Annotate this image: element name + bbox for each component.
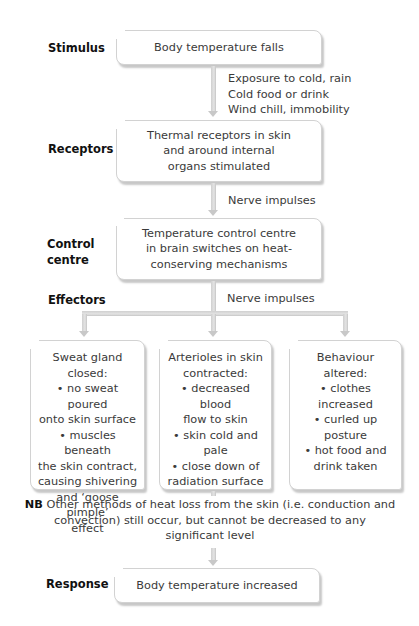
box-line: causing shivering	[37, 474, 138, 490]
receptors-box: Thermal receptors in skin and around int…	[116, 120, 322, 182]
nb-prefix: NB	[25, 498, 43, 511]
stimulus-box: Body temperature falls	[116, 30, 322, 65]
label-line: centre	[47, 252, 95, 268]
cause-line: Cold food or drink	[228, 87, 351, 103]
nerve-impulses-note-2: Nerve impulses	[227, 291, 315, 307]
cause-line: Exposure to cold, rain	[228, 71, 351, 87]
connector-effectors-note	[211, 491, 216, 496]
box-line: • skin cold and	[166, 428, 265, 444]
box-line: closed:	[37, 366, 138, 382]
box-line: Sweat gland	[37, 350, 138, 366]
box-line: Temperature control centre	[142, 226, 296, 242]
stage-label-receptors: Receptors	[48, 141, 113, 157]
effector-box-sweat-gland: Sweat gland closed: • no sweat poured on…	[30, 340, 145, 490]
box-line: • curled up	[296, 412, 395, 428]
branch-connector-left	[82, 314, 87, 332]
label-line: Control	[47, 236, 95, 252]
nb-line: NB Other methods of heat loss from the s…	[20, 497, 400, 513]
arrow-down-icon	[208, 331, 218, 337]
effector-box-arterioles: Arterioles in skin contracted: • decreas…	[159, 340, 272, 490]
box-line: organs stimulated	[147, 159, 291, 175]
box-line: radiation surface	[166, 474, 265, 490]
box-line: Behaviour altered:	[296, 350, 395, 381]
box-line: • close down of	[166, 459, 265, 475]
stage-label-stimulus: Stimulus	[48, 40, 105, 56]
box-line: pale	[166, 443, 265, 459]
response-text: Body temperature increased	[136, 578, 298, 594]
box-line: in brain switches on heat-	[142, 241, 296, 257]
nb-note: NB Other methods of heat loss from the s…	[20, 497, 400, 544]
nerve-impulses-note-1: Nerve impulses	[228, 193, 316, 209]
box-line: • decreased blood	[166, 381, 265, 412]
box-line: posture	[296, 428, 395, 444]
stage-label-effectors: Effectors	[48, 292, 106, 308]
box-line: Arterioles in skin	[166, 350, 265, 366]
nb-text: Other methods of heat loss from the skin…	[47, 498, 396, 511]
box-line: onto skin surface	[37, 412, 138, 428]
control-centre-box: Temperature control centre in brain swit…	[116, 218, 322, 280]
connector-receptors-control	[211, 183, 216, 211]
stimulus-text: Body temperature falls	[154, 40, 284, 56]
stage-label-control-centre: Control centre	[47, 236, 95, 268]
box-line: • hot food and	[296, 443, 395, 459]
arrow-down-icon	[340, 331, 350, 337]
box-line: increased	[296, 397, 395, 413]
box-line: contracted:	[166, 366, 265, 382]
branch-connector-right	[343, 314, 348, 332]
nb-line: significant level	[20, 528, 400, 544]
stage-label-response: Response	[46, 576, 108, 592]
stimulus-causes: Exposure to cold, rain Cold food or drin…	[228, 71, 351, 118]
box-line: • muscles beneath	[37, 428, 138, 459]
box-line: the skin contract,	[37, 459, 138, 475]
response-box: Body temperature increased	[114, 568, 320, 603]
box-line: Thermal receptors in skin	[147, 128, 291, 144]
box-line: conserving mechanisms	[142, 257, 296, 273]
box-line: flow to skin	[166, 412, 265, 428]
arrow-down-icon	[79, 331, 89, 337]
branch-connector-middle	[211, 314, 216, 332]
box-line: • clothes	[296, 381, 395, 397]
nb-line: convection) still occur, but cannot be d…	[20, 513, 400, 529]
box-line: drink taken	[296, 459, 395, 475]
arrow-down-icon	[208, 560, 218, 566]
connector-stimulus-receptors	[211, 66, 216, 112]
box-line: and around internal	[147, 143, 291, 159]
connector-control-effectors	[211, 281, 216, 314]
effector-box-behaviour: Behaviour altered: • clothes increased •…	[289, 340, 402, 490]
arrow-down-icon	[208, 111, 218, 117]
box-line: • no sweat poured	[37, 381, 138, 412]
cause-line: Wind chill, immobility	[228, 102, 351, 118]
arrow-down-icon	[208, 210, 218, 216]
